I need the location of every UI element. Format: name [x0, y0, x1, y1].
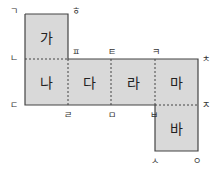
vertex-r: ㄹ — [64, 111, 72, 120]
vertex-p: ㅍ — [72, 48, 80, 57]
vertex-o: ㅇ — [193, 157, 201, 166]
vertex-j: ㅈ — [202, 101, 210, 110]
vertex-h: ㅎ — [72, 7, 80, 16]
net-outline — [0, 0, 217, 174]
vertex-m: ㅁ — [108, 111, 116, 120]
vertex-b: ㅂ — [150, 111, 158, 120]
vertex-n: ㄴ — [10, 54, 18, 63]
vertex-s: ㅅ — [151, 157, 159, 166]
vertex-k: ㅋ — [152, 48, 160, 57]
vertex-t: ㅌ — [108, 48, 116, 57]
vertex-ch: ㅊ — [202, 55, 210, 64]
vertex-d: ㄷ — [10, 101, 18, 110]
vertex-g: ㄱ — [10, 7, 18, 16]
